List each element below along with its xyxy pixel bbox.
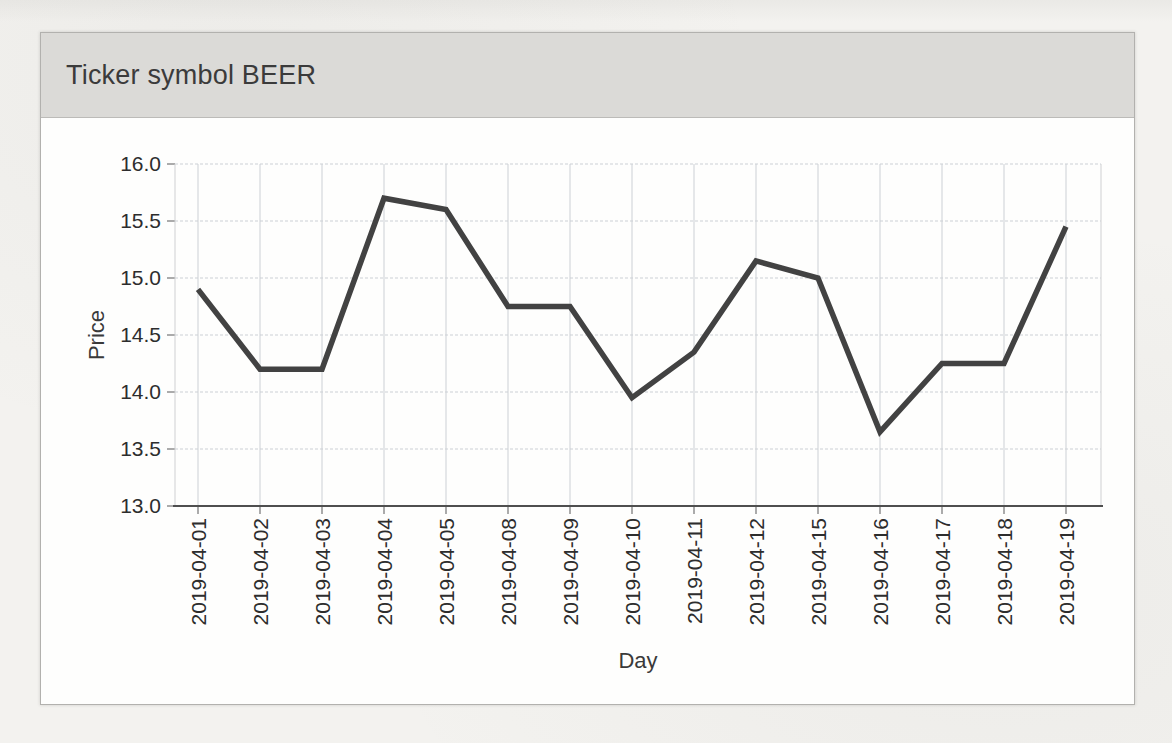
y-tick-label: 13.0 [120,494,161,517]
y-tick-label: 14.0 [120,380,161,403]
price-line-chart: 16.015.515.014.514.013.513.02019-04-0120… [41,118,1134,704]
x-tick-label: 2019-04-18 [993,518,1016,625]
stock-chart-panel: Ticker symbol BEER 16.015.515.014.514.01… [40,32,1135,705]
chart-title: Ticker symbol BEER [66,60,316,91]
x-tick-label: 2019-04-05 [435,518,458,625]
x-axis-title: Day [618,648,657,673]
scanned-page-background: Ticker symbol BEER 16.015.515.014.514.01… [0,0,1172,743]
x-tick-label: 2019-04-04 [373,518,396,626]
y-tick-label: 16.0 [120,152,161,175]
x-tick-label: 2019-04-17 [931,518,954,625]
x-tick-label: 2019-04-15 [807,518,830,625]
y-tick-label: 13.5 [120,437,161,460]
x-tick-label: 2019-04-02 [249,518,272,625]
y-tick-label: 15.5 [120,209,161,232]
x-tick-label: 2019-04-01 [187,518,210,625]
chart-plot-region: 16.015.515.014.514.013.513.02019-04-0120… [41,118,1134,704]
x-tick-label: 2019-04-08 [497,518,520,625]
y-axis-title: Price [84,310,109,360]
y-tick-label: 15.0 [120,266,161,289]
x-tick-label: 2019-04-16 [869,518,892,625]
y-tick-label: 14.5 [120,323,161,346]
x-tick-label: 2019-04-09 [559,518,582,625]
x-tick-label: 2019-04-19 [1055,518,1078,625]
x-tick-label: 2019-04-03 [311,518,334,625]
x-tick-label: 2019-04-10 [621,518,644,625]
x-tick-label: 2019-04-11 [683,518,706,624]
x-tick-label: 2019-04-12 [745,518,768,625]
chart-title-bar: Ticker symbol BEER [41,33,1134,118]
